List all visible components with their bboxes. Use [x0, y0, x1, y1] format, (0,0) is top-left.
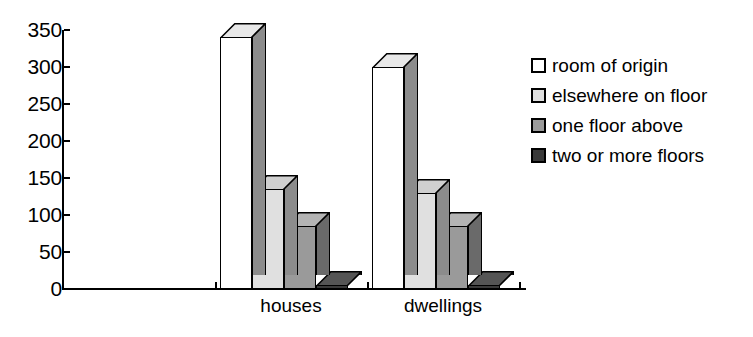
legend-swatch — [531, 148, 546, 163]
y-axis-tick — [64, 66, 70, 68]
legend-swatch — [531, 58, 546, 73]
legend-item: elsewhere on floor — [531, 80, 749, 110]
legend-item: one floor above — [531, 110, 749, 140]
y-axis-tick-label: 150 — [16, 167, 62, 188]
y-axis-tick-label: 350 — [16, 19, 62, 40]
x-axis-category-label: houses — [221, 295, 361, 317]
y-axis-tick — [64, 251, 70, 253]
bar-side-face — [404, 53, 418, 275]
y-axis-tick — [64, 29, 70, 31]
bar — [220, 23, 266, 289]
x-axis-tick — [367, 282, 369, 289]
y-axis-tick — [64, 177, 70, 179]
legend: room of originelsewhere on floorone floo… — [531, 50, 749, 170]
y-axis-tick-label: 200 — [16, 130, 62, 151]
legend-swatch — [531, 118, 546, 133]
x-axis-tick — [215, 282, 217, 289]
legend-item: room of origin — [531, 50, 749, 80]
y-axis-tick-label: 0 — [16, 278, 62, 299]
legend-swatch — [531, 88, 546, 103]
y-axis-tick — [64, 214, 70, 216]
bar — [372, 53, 418, 289]
x-axis-category-label: dwellings — [373, 295, 513, 317]
y-axis-tick-label: 250 — [16, 93, 62, 114]
bar-chart: 050100150200250300350 housesdwellings ro… — [0, 0, 753, 337]
y-axis-tick — [64, 103, 70, 105]
legend-item: two or more floors — [531, 140, 749, 170]
y-axis-tick-label: 100 — [16, 204, 62, 225]
x-axis-tick — [519, 282, 521, 289]
legend-label: two or more floors — [552, 145, 704, 166]
legend-label: room of origin — [552, 55, 668, 76]
bar-front-face — [220, 37, 252, 289]
bar-side-face — [252, 23, 266, 275]
bar-front-face — [372, 67, 404, 289]
y-axis-tick-label: 300 — [16, 56, 62, 77]
y-axis-tick-label: 50 — [16, 241, 62, 262]
legend-label: elsewhere on floor — [552, 85, 707, 106]
legend-label: one floor above — [552, 115, 683, 136]
y-axis-tick — [64, 140, 70, 142]
